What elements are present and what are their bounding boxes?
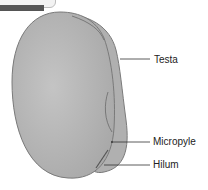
label-hilum: Hilum [153, 159, 179, 171]
micropyle-dot [111, 141, 113, 143]
label-micropyle: Micropyle [153, 136, 196, 148]
seed-body [12, 12, 115, 178]
label-testa: Testa [154, 54, 178, 66]
